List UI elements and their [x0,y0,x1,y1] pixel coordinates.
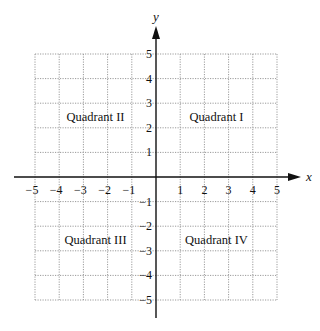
x-tick-label: −5 [26,183,39,197]
x-tick-label: −4 [50,183,63,197]
x-tick-label: −2 [98,183,111,197]
x-tick-label: 5 [274,183,280,197]
x-tick-label: −1 [122,183,135,197]
x-axis-label: x [305,169,312,184]
y-tick-label: −1 [139,195,152,209]
y-tick-label: −3 [139,244,152,258]
y-axis-arrow-icon [152,26,160,39]
x-tick-label: 4 [250,183,256,197]
y-tick-label: −5 [139,293,152,307]
y-tick-label: 5 [146,47,152,61]
y-axis-label: y [151,9,159,24]
y-tick-label: −2 [139,219,152,233]
y-tick-label: 4 [146,72,152,86]
x-tick-label: 3 [226,183,232,197]
x-tick-label: 2 [201,183,207,197]
quadrant-label: Quadrant IV [185,233,248,247]
y-tick-label: 2 [146,121,152,135]
quadrant-label: Quadrant III [64,233,126,247]
axes [14,26,301,318]
x-axis-arrow-icon [288,173,301,181]
quadrant-label: Quadrant II [67,110,125,124]
x-tick-label: 1 [177,183,183,197]
quadrant-label: Quadrant I [190,110,244,124]
y-tick-label: −4 [139,268,152,282]
x-tick-label: −3 [74,183,87,197]
y-tick-label: 1 [146,145,152,159]
coordinate-plane: −5−4−3−2−112345−5−4−3−2−112345 Quadrant … [0,0,320,331]
y-tick-label: 3 [146,96,152,110]
